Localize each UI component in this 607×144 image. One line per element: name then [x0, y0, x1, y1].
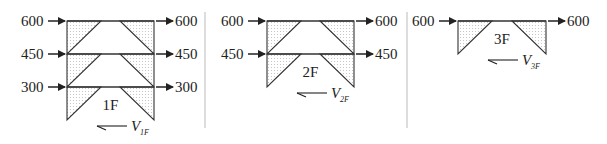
- story-label: 2F: [303, 64, 319, 80]
- free-body-diagram: 6006004504503003001FV1F6006004504502FV2F…: [0, 0, 607, 144]
- panel-2f: 6006004504502FV2F: [221, 13, 398, 104]
- right-force-label: 600: [175, 13, 198, 29]
- story-label: 3F: [494, 31, 510, 47]
- shear-arrowhead: [488, 60, 497, 64]
- left-shaded-triangle: [67, 54, 101, 87]
- right-shaded-triangle: [120, 54, 154, 87]
- story-label: 1F: [103, 97, 119, 113]
- left-shaded-triangle: [67, 21, 101, 54]
- panel-3f: 6006003FV3F: [412, 13, 590, 71]
- right-force-label: 600: [375, 13, 398, 29]
- left-shaded-triangle: [458, 21, 492, 54]
- right-shaded-triangle: [320, 54, 354, 87]
- right-force-label: 450: [375, 46, 398, 62]
- right-force-label: 450: [175, 46, 198, 62]
- left-shaded-triangle: [267, 54, 301, 87]
- right-shaded-triangle: [120, 87, 154, 120]
- shear-arrowhead: [297, 93, 306, 97]
- right-shaded-triangle: [120, 21, 154, 54]
- left-force-label: 450: [221, 46, 244, 62]
- shear-subscript: 1F: [140, 128, 149, 137]
- left-force-label: 450: [21, 46, 44, 62]
- left-force-label: 600: [221, 13, 244, 29]
- shear-arrowhead: [97, 126, 106, 130]
- left-shaded-triangle: [267, 21, 301, 54]
- left-force-label: 600: [21, 13, 44, 29]
- shear-subscript: 3F: [530, 62, 540, 71]
- left-force-label: 300: [21, 79, 44, 95]
- right-force-label: 600: [567, 13, 590, 29]
- right-shaded-triangle: [320, 21, 354, 54]
- right-force-label: 300: [175, 79, 198, 95]
- panel-1f: 6006004504503003001FV1F: [21, 13, 198, 137]
- left-force-label: 600: [412, 13, 435, 29]
- right-shaded-triangle: [512, 21, 546, 54]
- shear-subscript: 2F: [340, 95, 349, 104]
- left-shaded-triangle: [67, 87, 101, 120]
